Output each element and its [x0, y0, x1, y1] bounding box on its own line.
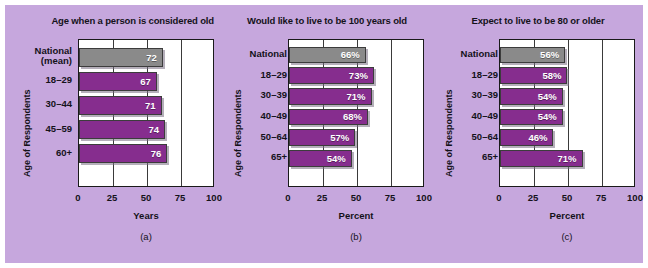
bar-value-label: 68%	[343, 111, 367, 122]
bar-value-label: 46%	[528, 132, 552, 143]
bar-value-label: 67	[140, 76, 156, 87]
x-tick-label: 50	[554, 192, 580, 203]
bar: 72	[79, 48, 163, 67]
plot-area: 66%73%71%68%57%54%	[288, 39, 424, 187]
bar: 54%	[500, 88, 563, 105]
bar: 54%	[289, 150, 352, 167]
x-tick-label: 50	[343, 192, 369, 203]
x-tick-label: 75	[377, 192, 403, 203]
bar: 54%	[500, 109, 563, 126]
bar: 67	[79, 72, 157, 91]
category-label: 50–64	[223, 132, 287, 142]
x-tick-label: 100	[622, 192, 648, 203]
panel-caption: (a)	[78, 231, 214, 242]
x-tick-label: 0	[65, 192, 91, 203]
panel-caption: (c)	[499, 231, 635, 242]
panel-caption: (b)	[288, 231, 424, 242]
bar-value-label: 54%	[327, 153, 351, 164]
plot-area: 56%58%54%54%46%71%	[499, 39, 635, 187]
category-label: 30–39	[434, 90, 498, 100]
bar-value-label: 74	[148, 124, 164, 135]
bar: 68%	[289, 109, 368, 126]
bar: 73%	[289, 67, 374, 84]
plot-area: 7267717476	[78, 39, 214, 187]
bar: 58%	[500, 67, 567, 84]
bar-value-label: 54%	[538, 111, 562, 122]
chart-panels: Age when a person is considered oldAge o…	[5, 5, 643, 263]
chart-title: Would like to live to be 100 years old	[221, 15, 433, 26]
x-tick-label: 25	[99, 192, 125, 203]
category-label: 65+	[434, 152, 498, 162]
bar: 71	[79, 96, 162, 115]
gridline	[602, 40, 603, 186]
chart-panel-c: Expect to live to be 80 or olderAge of R…	[432, 5, 644, 263]
chart-panel-b: Would like to live to be 100 years oldAg…	[221, 5, 433, 263]
category-label: 40–49	[434, 111, 498, 121]
bar-value-label: 58%	[542, 70, 566, 81]
bar-value-label: 56%	[540, 49, 564, 60]
x-tick-label: 75	[167, 192, 193, 203]
x-tick-label: 75	[588, 192, 614, 203]
chart-panel-a: Age when a person is considered oldAge o…	[8, 5, 220, 263]
bar: 46%	[500, 129, 553, 146]
category-label: 18–29	[223, 70, 287, 80]
x-tick-label: 25	[520, 192, 546, 203]
bar-value-label: 57%	[330, 132, 354, 143]
bar: 57%	[289, 129, 355, 146]
gridline	[181, 40, 182, 186]
bar-value-label: 73%	[349, 70, 373, 81]
x-axis-label: Percent	[288, 210, 424, 221]
bar: 56%	[500, 47, 565, 64]
bar-value-label: 71%	[558, 153, 582, 164]
category-label: National	[434, 49, 498, 59]
x-tick-label: 0	[275, 192, 301, 203]
category-label: 50–64	[434, 132, 498, 142]
bar: 71%	[289, 88, 372, 105]
bar: 74	[79, 120, 165, 139]
bar: 76	[79, 144, 167, 163]
bar: 66%	[289, 47, 366, 64]
bar: 71%	[500, 150, 583, 167]
figure-panel-group: Age when a person is considered oldAge o…	[5, 5, 643, 263]
category-label: 18–29	[434, 70, 498, 80]
bar-value-label: 54%	[538, 91, 562, 102]
bar-value-label: 71	[145, 100, 161, 111]
x-axis-label: Years	[78, 210, 214, 221]
x-axis-label: Percent	[499, 210, 635, 221]
x-tick-label: 0	[486, 192, 512, 203]
gridline	[391, 40, 392, 186]
category-label: National	[223, 49, 287, 59]
category-label: 45–59	[6, 124, 72, 134]
category-label: 30–39	[223, 90, 287, 100]
bar-value-label: 76	[151, 148, 167, 159]
x-tick-label: 50	[133, 192, 159, 203]
x-tick-label: 25	[309, 192, 335, 203]
bar-value-label: 71%	[347, 91, 371, 102]
chart-title: Age when a person is considered old	[8, 15, 220, 26]
bar-value-label: 66%	[341, 49, 365, 60]
category-label: 65+	[223, 152, 287, 162]
category-label: 60+	[6, 148, 72, 158]
category-label: 18–29	[6, 75, 72, 85]
category-label: National (mean)	[6, 46, 72, 66]
category-label: 30–44	[6, 99, 72, 109]
bar-value-label: 72	[146, 52, 162, 63]
category-label: 40–49	[223, 111, 287, 121]
chart-title: Expect to live to be 80 or older	[432, 15, 644, 26]
